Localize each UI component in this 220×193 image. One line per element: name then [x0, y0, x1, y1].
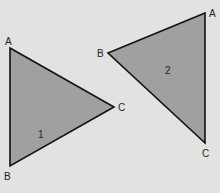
t1-vertex-b-label: B	[4, 171, 11, 182]
triangle-2-label: 2	[165, 65, 171, 76]
t1-vertex-c-label: C	[118, 102, 125, 113]
triangle-1-label: 1	[38, 129, 44, 140]
triangle-1	[10, 48, 114, 166]
t2-vertex-c-label: C	[202, 148, 209, 159]
triangles-diagram: 1 2 A C B B A C	[0, 0, 220, 193]
triangle-2	[108, 13, 205, 143]
t2-vertex-b-label: B	[97, 48, 104, 59]
t1-vertex-a-label: A	[5, 36, 12, 47]
t2-vertex-a-label: A	[209, 8, 216, 19]
